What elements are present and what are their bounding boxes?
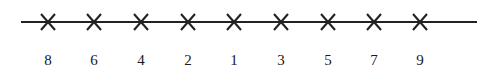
mark-label: 3 [266, 52, 296, 68]
mark-label: 1 [219, 52, 249, 68]
mark-label: 2 [173, 52, 203, 68]
number-line-figure: 864213579 [0, 0, 499, 79]
mark-label: 5 [313, 52, 343, 68]
mark-label: 6 [79, 52, 109, 68]
mark-label: 4 [126, 52, 156, 68]
mark-label: 9 [405, 52, 435, 68]
mark-label: 8 [33, 52, 63, 68]
mark-label: 7 [359, 52, 389, 68]
